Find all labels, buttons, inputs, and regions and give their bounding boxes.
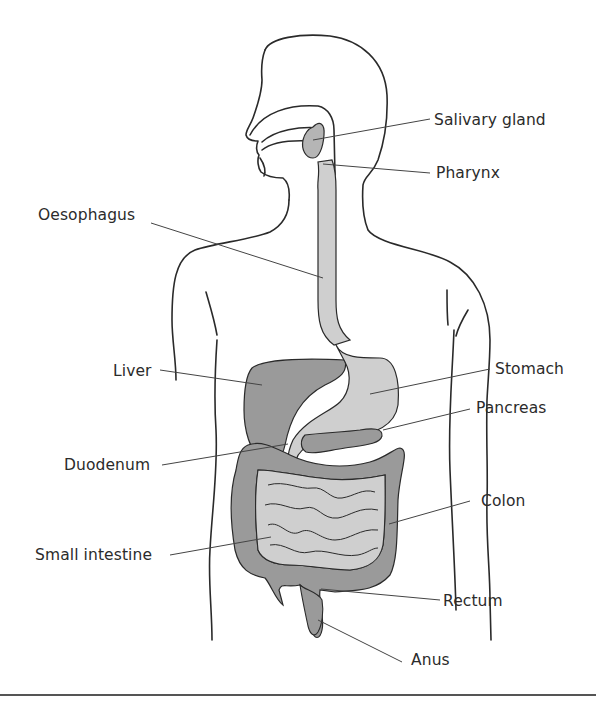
label-colon: Colon [481, 492, 525, 510]
leader-anus [318, 620, 402, 662]
label-pharynx: Pharynx [436, 164, 500, 182]
label-stomach: Stomach [495, 360, 564, 378]
label-liver: Liver [113, 362, 152, 380]
salivary-gland-shape [303, 124, 325, 158]
small-intestine-shape [256, 470, 385, 570]
leader-salivary-gland [313, 119, 430, 140]
bottom-divider [0, 694, 596, 696]
leader-rectum [321, 589, 440, 600]
label-small-intestine: Small intestine [35, 546, 152, 564]
anatomy-illustration [0, 0, 596, 704]
leader-colon [389, 501, 470, 524]
label-pancreas: Pancreas [476, 399, 546, 417]
label-rectum: Rectum [443, 592, 503, 610]
label-salivary-gland: Salivary gland [434, 111, 546, 129]
leader-pharynx [323, 164, 430, 173]
digestive-system-diagram: Salivary gland Pharynx Oesophagus Liver … [0, 0, 596, 704]
oesophagus-shape [318, 160, 350, 345]
label-anus: Anus [411, 651, 450, 669]
label-duodenum: Duodenum [64, 456, 150, 474]
label-oesophagus: Oesophagus [38, 206, 135, 224]
